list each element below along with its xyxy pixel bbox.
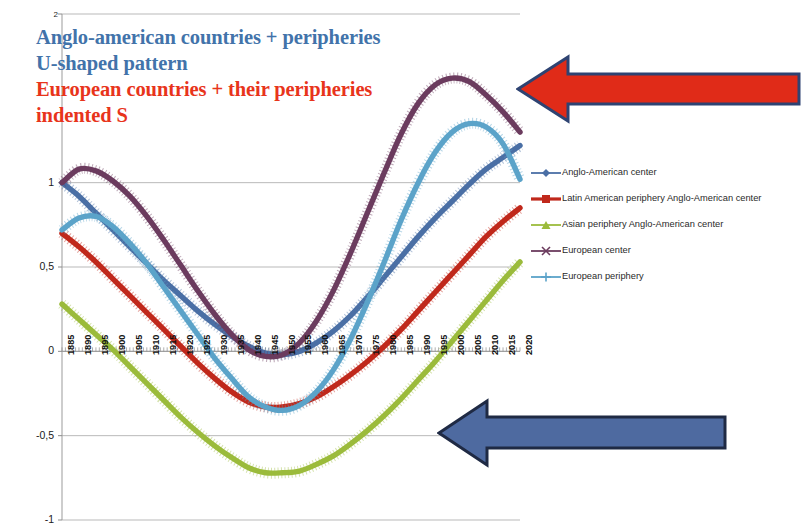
y-tick-label: 1 — [28, 176, 54, 188]
y-tick-label: 2 — [38, 10, 58, 19]
x-tick-label: 1990 — [422, 335, 432, 355]
annotation-anglo-line-1: Anglo-american countries + peripheries — [36, 24, 380, 50]
y-tick-label: 0,5 — [28, 260, 54, 272]
x-tick-label: 1900 — [117, 335, 127, 355]
x-tick-label: 1980 — [388, 335, 398, 355]
annotation-european: European countries + their peripheries i… — [36, 76, 372, 128]
x-tick-label: 1905 — [134, 335, 144, 355]
x-tick-label: 2015 — [507, 335, 517, 355]
legend-item-0[interactable]: Anglo-American center — [530, 166, 805, 179]
chart-legend: Anglo-American centerLatin American peri… — [530, 166, 805, 296]
legend-item-1[interactable]: Latin American periphery Anglo-American … — [530, 192, 805, 205]
x-tick-label: 1925 — [202, 335, 212, 355]
x-tick-label: 1910 — [151, 335, 161, 355]
x-tick-label: 1965 — [337, 335, 347, 355]
legend-marker-diamond-icon — [530, 167, 562, 179]
legend-item-4[interactable]: European periphery — [530, 270, 805, 283]
legend-label-2: Asian periphery Anglo-American center — [562, 218, 805, 231]
x-tick-label: 2010 — [490, 335, 500, 355]
legend-label-3: European center — [562, 244, 805, 257]
y-tick-label: -0,5 — [28, 429, 54, 441]
legend-marker-cross-icon — [530, 245, 562, 257]
x-tick-label: 2005 — [473, 335, 483, 355]
x-tick-label: 1955 — [303, 335, 313, 355]
legend-item-2[interactable]: Asian periphery Anglo-American center — [530, 218, 805, 231]
x-tick-label: 1915 — [168, 335, 178, 355]
x-tick-label: 1935 — [236, 335, 246, 355]
x-tick-label: 1920 — [185, 335, 195, 355]
x-tick-label: 1885 — [66, 335, 76, 355]
x-tick-label: 1970 — [354, 335, 364, 355]
annotation-anglo-american: Anglo-american countries + peripheries U… — [36, 24, 380, 76]
x-tick-label: 1960 — [320, 335, 330, 355]
legend-label-4: European periphery — [562, 270, 805, 283]
x-tick-label: 1945 — [270, 335, 280, 355]
annotation-euro-line-2: indented S — [36, 102, 372, 128]
x-tick-label: 1995 — [439, 335, 449, 355]
y-tick-label: -1 — [28, 513, 54, 525]
x-tick-label: 1950 — [287, 335, 297, 355]
blue-left-arrow-icon — [437, 398, 727, 468]
x-tick-label: 2020 — [524, 335, 534, 355]
legend-marker-triangle-icon — [530, 219, 562, 231]
legend-label-0: Anglo-American center — [562, 166, 805, 179]
x-tick-label: 1940 — [253, 335, 263, 355]
legend-marker-square-icon — [530, 193, 562, 205]
x-tick-label: 1975 — [371, 335, 381, 355]
legend-label-1: Latin American periphery Anglo-American … — [562, 192, 805, 205]
legend-item-3[interactable]: European center — [530, 244, 805, 257]
x-tick-label: 1895 — [100, 335, 110, 355]
x-tick-label: 2000 — [456, 335, 466, 355]
red-left-arrow-icon — [516, 52, 801, 126]
legend-marker-plus-icon — [530, 271, 562, 283]
y-tick-label: 0 — [28, 344, 54, 356]
x-tick-label: 1930 — [219, 335, 229, 355]
annotation-anglo-line-2: U-shaped pattern — [36, 50, 380, 76]
chart-container: 210,50-0,5-1 188518901895190019051910191… — [0, 0, 809, 525]
annotation-euro-line-1: European countries + their peripheries — [36, 76, 372, 102]
x-tick-label: 1985 — [405, 335, 415, 355]
x-tick-label: 1890 — [83, 335, 93, 355]
series-line-0 — [62, 146, 520, 355]
